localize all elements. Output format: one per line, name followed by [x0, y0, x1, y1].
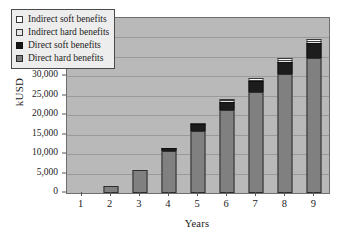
bar-segment-dh[interactable]: [220, 110, 235, 193]
x-axis-tick-label: 2: [97, 198, 123, 209]
bar-slot[interactable]: [154, 18, 183, 193]
bar-segment-ds[interactable]: [220, 102, 235, 111]
x-axis-tick-mark: [284, 192, 285, 196]
bar-segment-dh[interactable]: [161, 151, 176, 193]
bar-slot[interactable]: [183, 18, 212, 193]
bar-slot[interactable]: [242, 18, 271, 193]
x-axis-tick-label: 6: [213, 198, 239, 209]
legend-label: Direct soft benefits: [28, 41, 101, 51]
x-axis-tick-mark: [139, 192, 140, 196]
x-axis-tick-label: 1: [68, 198, 94, 209]
bar-segment-dh[interactable]: [278, 74, 293, 193]
legend-item[interactable]: Indirect hard benefits: [16, 26, 109, 39]
bar-slot[interactable]: [271, 18, 300, 193]
bar-slot[interactable]: [300, 18, 329, 193]
x-axis-tick-label: 9: [300, 198, 326, 209]
stacked-bar[interactable]: [278, 58, 293, 193]
stacked-bar[interactable]: [220, 99, 235, 193]
x-axis-tick-mark: [255, 192, 256, 196]
legend-swatch-icon: [16, 29, 23, 36]
y-axis-tick-label: 20,000: [12, 109, 58, 119]
legend-item[interactable]: Direct hard benefits: [16, 52, 109, 65]
y-axis-tick-label: 0: [12, 187, 58, 197]
bar-segment-dh[interactable]: [249, 92, 264, 193]
x-axis-tick-label: 4: [155, 198, 181, 209]
x-axis-tick-mark: [110, 192, 111, 196]
y-axis-tick-label: 25,000: [12, 90, 58, 100]
bar-segment-ds[interactable]: [278, 62, 293, 74]
stacked-bar[interactable]: [190, 123, 205, 193]
legend-swatch-icon: [16, 55, 23, 62]
legend-swatch-icon: [16, 16, 23, 23]
x-axis-tick-label: 7: [242, 198, 268, 209]
x-axis-tick-mark: [197, 192, 198, 196]
legend-item[interactable]: Indirect soft benefits: [16, 13, 109, 26]
bar-slot[interactable]: [213, 18, 242, 193]
x-axis-tick-mark: [313, 192, 314, 196]
bar-slot[interactable]: [125, 18, 154, 193]
stacked-bar[interactable]: [132, 170, 147, 193]
bar-segment-dh[interactable]: [307, 58, 322, 193]
bar-segment-ds[interactable]: [249, 81, 264, 92]
stacked-bar[interactable]: [249, 78, 264, 193]
bar-segment-ds[interactable]: [190, 124, 205, 131]
y-axis-tick-label: 30,000: [12, 71, 58, 81]
x-axis-tick-label: 5: [184, 198, 210, 209]
x-axis-tick-mark: [81, 192, 82, 196]
x-axis-tick-mark: [226, 192, 227, 196]
legend-label: Indirect hard benefits: [28, 28, 109, 38]
bar-segment-ds[interactable]: [307, 43, 322, 58]
y-axis-tick-label: 15,000: [12, 129, 58, 139]
x-axis-tick-label: 3: [126, 198, 152, 209]
stacked-bar[interactable]: [307, 39, 322, 193]
x-axis-title: Years: [66, 218, 328, 229]
bar-segment-dh[interactable]: [132, 170, 147, 193]
x-axis-tick-labels: 123456789: [66, 198, 328, 214]
legend-swatch-icon: [16, 42, 23, 49]
legend-label: Indirect soft benefits: [28, 15, 107, 25]
y-axis-tick-label: 10,000: [12, 148, 58, 158]
x-axis-tick-mark: [168, 192, 169, 196]
chart-legend: Indirect soft benefitsIndirect hard bene…: [11, 9, 115, 69]
y-axis-tick-label: 5,000: [12, 168, 58, 178]
legend-label: Direct hard benefits: [28, 54, 103, 64]
x-axis-tick-label: 8: [271, 198, 297, 209]
chart-figure: kUSD 05,00010,00015,00020,00025,00030,00…: [0, 0, 347, 242]
stacked-bar[interactable]: [161, 148, 176, 193]
bar-segment-dh[interactable]: [190, 131, 205, 193]
legend-item[interactable]: Direct soft benefits: [16, 39, 109, 52]
